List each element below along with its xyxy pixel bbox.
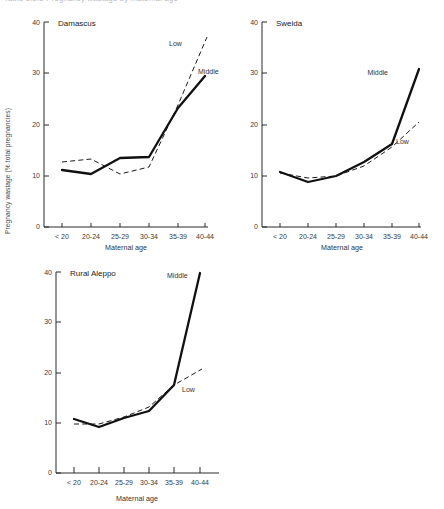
sweida-ytick-40: 40 [250, 19, 258, 26]
damascus-label-low: Low [169, 40, 183, 47]
aleppo-xtick-4: 35-39 [165, 479, 183, 486]
clipped-caption-text: Table 3.2.2 Pregnancy wastage by materna… [4, 0, 178, 3]
damascus-plot: 0 10 20 30 40 < 20 20-24 25-29 30-34 35-… [18, 14, 228, 254]
damascus-series-low [62, 37, 207, 174]
damascus-ytick-0: 0 [36, 223, 40, 230]
sweida-panel-title: Sweida [276, 19, 303, 28]
sweida-label-low: Low [396, 138, 410, 145]
damascus-ytick-40: 40 [32, 19, 40, 26]
damascus-xtick-5: 40-44 [196, 233, 214, 240]
sweida-x-ticks: < 20 20-24 25-29 30-34 35-39 40-44 [273, 223, 428, 240]
sweida-label-middle: Middle [367, 69, 388, 76]
damascus-label-middle: Middle [198, 68, 219, 75]
aleppo-ytick-20: 20 [44, 369, 52, 376]
sweida-y-ticks: 0 10 20 30 40 [250, 19, 267, 230]
sweida-xtick-2: 25-29 [327, 233, 345, 240]
chart-panel-rural-aleppo: 0 10 20 30 40 < 20 20-24 25-29 30-34 35-… [34, 264, 249, 509]
sweida-xtick-5: 40-44 [410, 233, 428, 240]
sweida-ytick-0: 0 [254, 223, 258, 230]
aleppo-x-axis-title: Maternal age [116, 494, 158, 503]
aleppo-ytick-40: 40 [44, 269, 52, 276]
damascus-series-middle [62, 76, 205, 174]
aleppo-axes [56, 272, 219, 473]
aleppo-panel-title: Rural Aleppo [70, 269, 116, 278]
damascus-ytick-10: 10 [32, 172, 40, 179]
sweida-axes [262, 22, 421, 227]
damascus-ytick-20: 20 [32, 121, 40, 128]
aleppo-ytick-0: 0 [48, 469, 52, 476]
aleppo-xtick-2: 25-29 [115, 479, 133, 486]
sweida-xtick-4: 35-39 [383, 233, 401, 240]
damascus-x-axis-title: Maternal age [105, 243, 147, 252]
damascus-xtick-3: 30-34 [140, 233, 158, 240]
sweida-xtick-0: < 20 [273, 233, 287, 240]
sweida-ytick-10: 10 [250, 172, 258, 179]
rural-aleppo-plot: 0 10 20 30 40 < 20 20-24 25-29 30-34 35-… [34, 264, 249, 509]
aleppo-xtick-5: 40-44 [191, 479, 209, 486]
damascus-ytick-30: 30 [32, 69, 40, 76]
damascus-xtick-0: < 20 [55, 233, 69, 240]
chart-panel-sweida: 0 10 20 30 40 < 20 20-24 25-29 30-34 35-… [236, 14, 441, 254]
aleppo-xtick-3: 30-34 [140, 479, 158, 486]
sweida-ytick-20: 20 [250, 121, 258, 128]
aleppo-ytick-10: 10 [44, 419, 52, 426]
sweida-x-axis-title: Maternal age [321, 243, 363, 252]
damascus-y-ticks: 0 10 20 30 40 [32, 19, 49, 230]
damascus-xtick-4: 35-39 [169, 233, 187, 240]
sweida-series-middle [280, 69, 419, 182]
aleppo-label-middle: Middle [167, 272, 188, 279]
sweida-xtick-3: 30-34 [355, 233, 373, 240]
damascus-xtick-1: 20-24 [82, 233, 100, 240]
sweida-xtick-1: 20-24 [299, 233, 317, 240]
y-axis-title-text: Pregnancy wastage (% total pregnancies) [4, 108, 11, 234]
damascus-panel-title: Damascus [58, 19, 96, 28]
y-axis-title: Pregnancy wastage (% total pregnancies) [0, 96, 14, 246]
aleppo-series-low [74, 369, 202, 424]
aleppo-xtick-1: 20-24 [90, 479, 108, 486]
aleppo-label-low: Low [182, 386, 196, 393]
chart-panel-damascus: 0 10 20 30 40 < 20 20-24 25-29 30-34 35-… [18, 14, 228, 254]
aleppo-ytick-30: 30 [44, 318, 52, 325]
aleppo-xtick-0: < 20 [67, 479, 81, 486]
aleppo-y-ticks: 0 10 20 30 40 [44, 269, 61, 476]
damascus-xtick-2: 25-29 [111, 233, 129, 240]
sweida-ytick-30: 30 [250, 69, 258, 76]
sweida-plot: 0 10 20 30 40 < 20 20-24 25-29 30-34 35-… [236, 14, 441, 254]
aleppo-series-middle [74, 273, 200, 427]
aleppo-x-ticks: < 20 20-24 25-29 30-34 35-39 40-44 [67, 467, 209, 486]
clipped-figure-caption: Table 3.2.2 Pregnancy wastage by materna… [4, 0, 244, 5]
damascus-axes [44, 22, 208, 227]
damascus-x-ticks: < 20 20-24 25-29 30-34 35-39 40-44 [55, 223, 214, 240]
